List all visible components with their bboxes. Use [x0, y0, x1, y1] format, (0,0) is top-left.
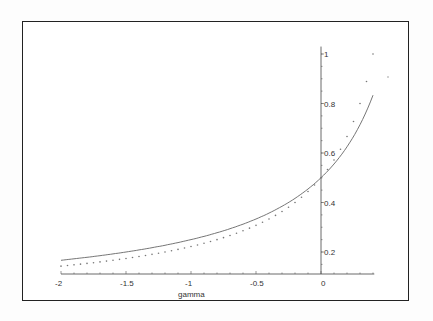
stray-point	[387, 76, 389, 78]
solid-series-line	[61, 95, 373, 260]
x-axis-label: gamma	[178, 290, 205, 299]
dotted-series-point	[138, 256, 140, 258]
dotted-series-point	[223, 237, 225, 239]
dotted-series-point	[177, 249, 179, 251]
dotted-series-point	[112, 259, 114, 261]
dotted-series-point	[229, 235, 231, 237]
x-tick-label: -2	[55, 279, 63, 288]
x-tick-label: 0	[321, 279, 326, 288]
dotted-series-point	[80, 263, 82, 265]
dotted-series-point	[203, 242, 205, 244]
dotted-series-point	[320, 177, 322, 179]
dotted-series-point	[73, 264, 75, 266]
dotted-series-point	[164, 251, 166, 253]
dotted-series-point	[132, 257, 134, 259]
dotted-series-point	[340, 148, 342, 150]
dotted-series-point	[67, 265, 69, 267]
dotted-series-point	[366, 81, 368, 83]
dotted-series-point	[86, 263, 88, 265]
dotted-series-point	[236, 232, 238, 234]
dotted-series-point	[216, 239, 218, 241]
x-tick-label: -0.5	[250, 279, 264, 288]
y-tick-label: 0.8	[324, 100, 336, 109]
dotted-series-point	[255, 225, 257, 227]
dotted-series-point	[171, 250, 173, 252]
dotted-series-point	[372, 53, 374, 55]
y-tick-label: 1	[324, 50, 329, 59]
dotted-series-point	[190, 246, 192, 248]
dotted-series-point	[151, 254, 153, 256]
dotted-series-point	[346, 136, 348, 138]
dotted-series-point	[125, 258, 127, 260]
axes: -2-1.5-1-0.500.20.40.60.81	[55, 47, 374, 288]
dotted-series-point	[210, 241, 212, 243]
dotted-series-point	[99, 261, 101, 263]
y-tick-label: 0.6	[324, 149, 336, 158]
x-tick-label: -1	[185, 279, 193, 288]
dotted-series-point	[119, 259, 121, 261]
dotted-series-point	[242, 230, 244, 232]
dotted-series-point	[268, 218, 270, 220]
dotted-series-point	[288, 206, 290, 208]
dotted-series-point	[249, 227, 251, 229]
plot-area: -2-1.5-1-0.500.20.40.60.81 gamma	[0, 0, 433, 321]
dotted-series-point	[184, 247, 186, 249]
dotted-series-point	[158, 252, 160, 254]
y-tick-label: 0.4	[324, 199, 336, 208]
dotted-series-point	[197, 244, 199, 246]
dotted-series-point	[262, 222, 264, 224]
dotted-series-point	[294, 202, 296, 204]
curves	[60, 53, 389, 267]
dotted-series-point	[314, 184, 316, 186]
dotted-series-point	[353, 121, 355, 123]
dotted-series-point	[145, 255, 147, 257]
dotted-series-point	[301, 196, 303, 198]
x-tick-label: -1.5	[120, 279, 134, 288]
dotted-series-point	[60, 265, 62, 267]
dotted-series-point	[359, 103, 361, 105]
dotted-series-point	[307, 191, 309, 193]
dotted-series-point	[333, 159, 335, 161]
dotted-series-point	[275, 215, 277, 217]
dotted-series-point	[327, 169, 329, 171]
y-tick-label: 0.2	[324, 248, 336, 257]
dotted-series-point	[281, 211, 283, 213]
dotted-series-point	[93, 262, 95, 264]
dotted-series-point	[106, 260, 108, 262]
